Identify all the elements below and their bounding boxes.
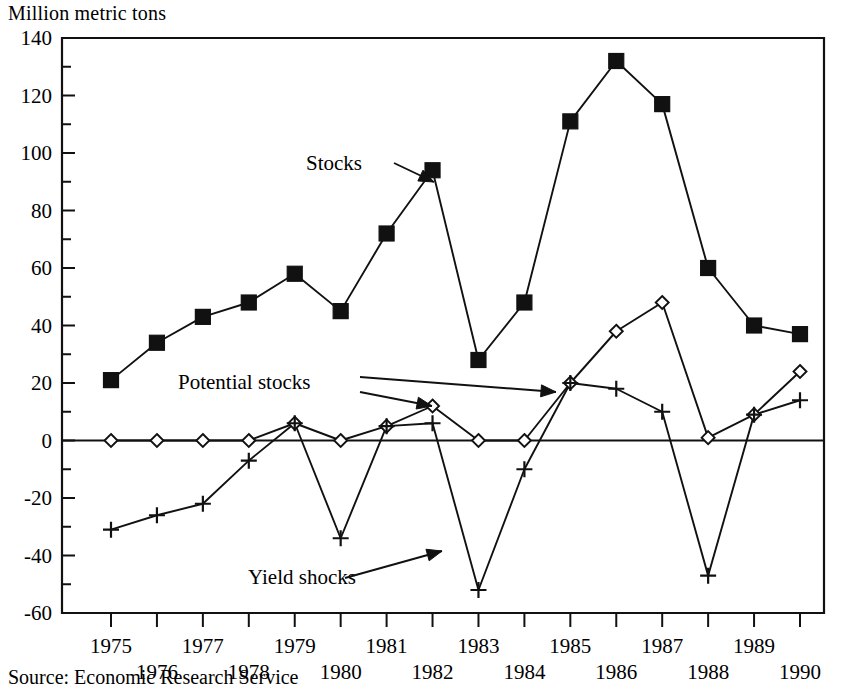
marker-potential-stocks	[334, 434, 347, 447]
marker-yield-shocks	[792, 392, 808, 408]
series-line-yield-shocks	[111, 383, 800, 590]
x-tick-label: 1975	[90, 634, 132, 658]
x-tick-label: 1986	[595, 660, 637, 684]
y-tick-label: 60	[31, 256, 52, 280]
marker-stocks	[701, 261, 716, 276]
marker-potential-stocks	[150, 434, 163, 447]
annotation-yield-shocks-label: Yield shocks	[248, 565, 356, 589]
annotation-potential-stocks-arrow-long-head	[541, 385, 556, 397]
y-tick-label: 80	[31, 199, 52, 223]
marker-stocks	[793, 327, 808, 342]
marker-potential-stocks	[196, 434, 209, 447]
marker-stocks	[471, 353, 486, 368]
y-tick-label: 120	[21, 84, 53, 108]
marker-stocks	[747, 318, 762, 333]
annotation-potential-stocks-label: Potential stocks	[178, 370, 310, 394]
series-line-stocks	[111, 61, 800, 380]
x-tick-label: 1989	[733, 634, 775, 658]
marker-potential-stocks	[656, 296, 669, 309]
marker-yield-shocks	[470, 582, 486, 598]
y-tick-label: 40	[31, 314, 52, 338]
marker-stocks	[563, 114, 578, 129]
marker-potential-stocks	[105, 434, 118, 447]
y-tick-label: -40	[24, 544, 52, 568]
x-tick-label: 1981	[366, 634, 408, 658]
annotation-potential-stocks-arrow-long-line	[360, 377, 556, 392]
marker-stocks	[287, 266, 302, 281]
marker-stocks	[333, 304, 348, 319]
marker-stocks	[104, 373, 119, 388]
marker-yield-shocks	[516, 461, 532, 477]
marker-stocks	[609, 54, 624, 69]
marker-yield-shocks	[608, 381, 624, 397]
marker-yield-shocks	[149, 507, 165, 523]
x-tick-label: 1979	[274, 634, 316, 658]
x-tick-label: 1984	[503, 660, 546, 684]
x-tick-label: 1987	[641, 634, 683, 658]
marker-stocks	[379, 226, 394, 241]
x-tick-label: 1985	[549, 634, 591, 658]
marker-yield-shocks	[700, 568, 716, 584]
annotation-yield-shocks-arrow-head	[426, 549, 442, 561]
marker-stocks	[149, 335, 164, 350]
marker-stocks	[517, 295, 532, 310]
x-tick-label: 1982	[412, 660, 454, 684]
line-chart-plot: 140120100806040200-20-40-601975197619771…	[0, 0, 844, 692]
marker-stocks	[655, 97, 670, 112]
marker-yield-shocks	[654, 404, 670, 420]
x-tick-label: 1977	[182, 634, 224, 658]
marker-stocks	[241, 295, 256, 310]
annotation-stocks-label: Stocks	[306, 151, 362, 175]
marker-yield-shocks	[333, 530, 349, 546]
marker-potential-stocks	[702, 431, 715, 444]
y-tick-label: 140	[21, 26, 53, 50]
y-tick-label: -20	[24, 486, 52, 510]
plot-frame	[62, 38, 824, 613]
x-tick-label: 1988	[687, 660, 729, 684]
y-tick-label: 20	[31, 371, 52, 395]
y-tick-label: 0	[42, 429, 53, 453]
chart-figure: Million metric tons 140120100806040200-2…	[0, 0, 844, 692]
x-tick-label: 1990	[779, 660, 821, 684]
x-tick-label: 1980	[320, 660, 362, 684]
y-tick-label: 100	[21, 141, 53, 165]
y-tick-label: -60	[24, 601, 52, 625]
source-note: Source: Economic Research Service	[8, 666, 298, 689]
marker-yield-shocks	[103, 522, 119, 538]
marker-potential-stocks	[242, 434, 255, 447]
marker-yield-shocks	[379, 418, 395, 434]
x-tick-label: 1983	[457, 634, 499, 658]
y-axis-title: Million metric tons	[8, 2, 166, 25]
marker-stocks	[195, 309, 210, 324]
marker-yield-shocks	[425, 415, 441, 431]
